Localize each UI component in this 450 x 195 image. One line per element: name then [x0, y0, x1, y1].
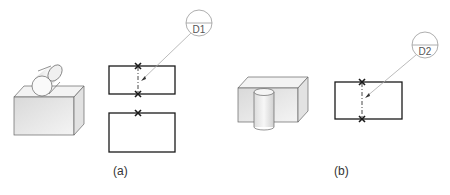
- figure-a-orthographic: [109, 63, 175, 152]
- leader-line: [142, 33, 191, 80]
- caption-a: (a): [113, 164, 128, 178]
- block-top-face: [238, 77, 308, 88]
- figure-b-isometric: [238, 77, 308, 130]
- leader-arrowhead: [365, 93, 370, 98]
- front-view-box: [109, 113, 175, 152]
- vertical-cylinder: [254, 89, 274, 131]
- figure-b-orthographic: [335, 79, 402, 122]
- balloon-label: D1: [193, 24, 206, 35]
- leader-line: [366, 55, 416, 97]
- diagram-canvas: D1 D2: [0, 0, 450, 195]
- balloon-label: D2: [419, 46, 432, 57]
- leader-arrowhead: [141, 76, 146, 81]
- caption-b: (b): [334, 164, 349, 178]
- figure-a-isometric: [14, 62, 84, 135]
- view-box: [335, 82, 402, 119]
- balloon-d1: D1: [141, 10, 212, 81]
- block-front-face: [14, 97, 74, 135]
